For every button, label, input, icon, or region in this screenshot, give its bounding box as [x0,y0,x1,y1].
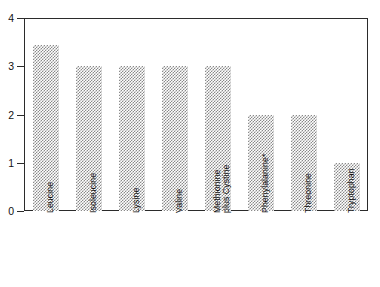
bars-layer [24,18,368,211]
bar-chart: 4 3 2 1 0 LeucineIsoleucineLysineValineM… [0,0,380,287]
y-axis-label-0: 0 [0,206,14,217]
x-axis-labels: LeucineIsoleucineLysineValineMethioninep… [24,211,368,287]
y-tick-mark-2 [17,115,24,116]
y-tick-mark-3 [17,66,24,67]
y-tick-mark-0 [17,211,24,212]
y-axis-label-2: 2 [0,109,14,120]
y-tick-mark-4 [17,18,24,19]
y-axis-label-1: 1 [0,158,14,169]
y-axis-label-3: 3 [0,61,14,72]
y-tick-mark-1 [17,163,24,164]
y-axis-label-4: 4 [0,13,14,24]
